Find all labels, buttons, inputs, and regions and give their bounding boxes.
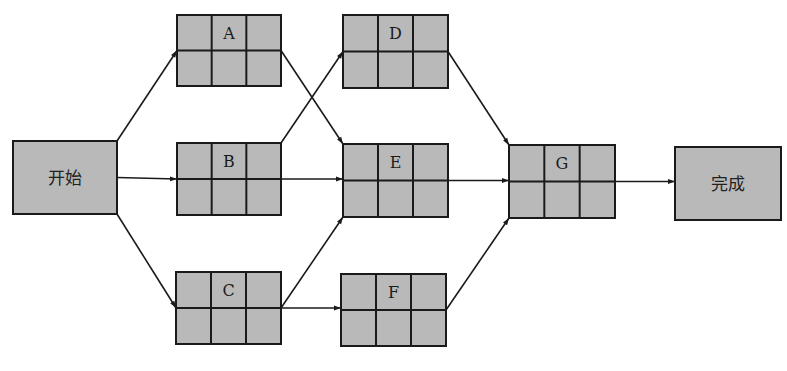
activity-label: D	[389, 24, 402, 43]
activity-node-g: G	[509, 145, 615, 218]
activity-label: E	[390, 153, 402, 172]
activity-node-f: F	[341, 274, 446, 346]
activity-label: C	[222, 281, 234, 300]
network-diagram: 开始完成ABCDEFG	[0, 0, 787, 371]
activity-node-c: C	[176, 272, 281, 344]
end-node: 完成	[675, 147, 781, 220]
activity-label: B	[223, 152, 235, 171]
activity-node-b: B	[177, 143, 281, 215]
start-node: 开始	[13, 141, 117, 214]
edge-d-to-g	[448, 52, 509, 146]
edge-c-to-e	[281, 217, 343, 308]
edge-start-to-a	[117, 51, 177, 142]
activity-label: A	[222, 24, 235, 43]
edge-start-to-b	[117, 178, 177, 180]
activity-label: G	[556, 154, 569, 173]
activity-node-e: E	[343, 144, 448, 217]
activity-node-d: D	[343, 15, 448, 88]
end-label: 完成	[711, 174, 745, 194]
start-label: 开始	[48, 168, 82, 188]
edge-start-to-c	[117, 214, 176, 308]
activity-node-a: A	[177, 15, 281, 86]
edge-f-to-g	[446, 218, 509, 310]
nodes-layer: 开始完成ABCDEFG	[13, 15, 781, 346]
activity-label: F	[388, 283, 399, 302]
